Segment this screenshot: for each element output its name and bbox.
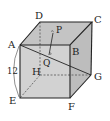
label-A: A [7, 39, 16, 50]
label-P: P [56, 25, 62, 35]
label-Q: Q [43, 58, 50, 68]
label-H: H [32, 66, 41, 77]
label-D: D [35, 10, 43, 21]
label-C: C [94, 14, 102, 25]
label-E: E [9, 95, 16, 106]
cube-diagram: D C A B P Q H G E F 12 [0, 0, 110, 121]
label-F: F [68, 101, 75, 112]
dimension-label-12: 12 [7, 66, 18, 76]
label-B: B [72, 46, 79, 57]
face-front [20, 45, 70, 98]
label-G: G [94, 71, 102, 82]
